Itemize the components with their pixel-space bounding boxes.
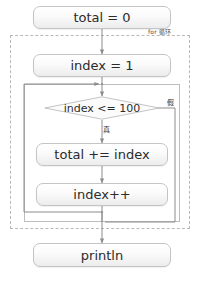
node-output-label: println xyxy=(81,248,123,261)
node-init-index-label: index = 1 xyxy=(71,59,134,72)
node-increment[interactable]: index++ xyxy=(36,183,168,206)
node-increment-label: index++ xyxy=(73,188,130,201)
node-init-total[interactable]: total = 0 xyxy=(33,6,171,29)
node-init-index[interactable]: index = 1 xyxy=(33,54,171,77)
edge-label-false: 假 xyxy=(167,97,174,107)
node-condition-label: index <= 100 xyxy=(64,103,141,114)
node-output[interactable]: println xyxy=(33,243,171,267)
node-accumulate[interactable]: total += index xyxy=(36,143,168,166)
node-init-total-label: total = 0 xyxy=(73,11,130,24)
node-condition[interactable]: index <= 100 xyxy=(44,96,160,120)
flowchart-canvas: for 循环 xyxy=(0,0,205,286)
node-accumulate-label: total += index xyxy=(54,148,149,161)
edge-label-true: 真 xyxy=(103,124,110,134)
